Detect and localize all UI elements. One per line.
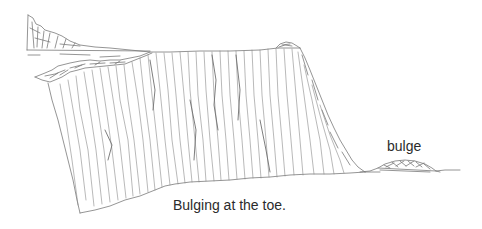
bulge-label: bulge	[387, 138, 421, 154]
figure-caption: Bulging at the toe.	[173, 197, 286, 213]
cliff-sketch	[0, 0, 482, 229]
cliff-striations	[60, 49, 344, 206]
cliff-left-edge	[48, 83, 80, 213]
bulge-mound	[360, 160, 440, 172]
background-headland	[27, 15, 150, 57]
cliff-right-face	[300, 48, 365, 172]
